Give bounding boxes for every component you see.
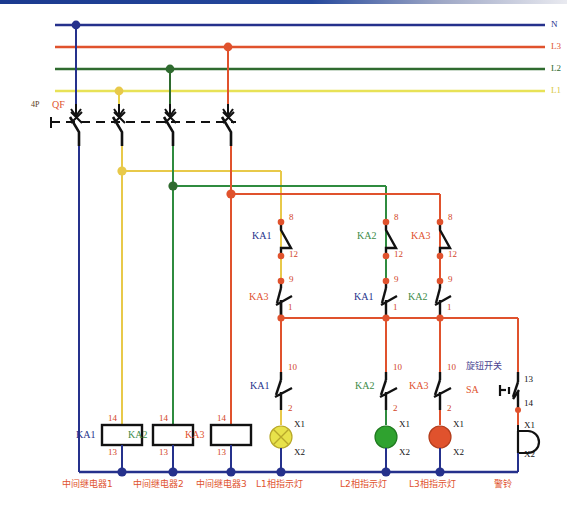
lamp-L2 [375,426,397,472]
terminal-10-lamp2: 10 [393,363,402,372]
coil-label-KA2: KA2 [128,430,147,440]
junction-dot [115,87,124,96]
junction-dot [226,189,235,198]
schematic-canvas: N L3 L2 L1 4P QF 8 KA1 12 9 KA3 1 8 KA2 … [0,0,567,516]
contact-device-KA1-nc: KA1 [252,231,271,241]
junction-dot [168,467,177,476]
terminal-1-col3: 1 [447,303,452,312]
junction-dot [72,21,81,30]
lamp-L1 [270,426,292,472]
terminal-9-col2: 9 [394,275,399,284]
coil3-terminal-13: 13 [217,448,226,457]
contact-device-KA3-nc: KA3 [411,231,430,241]
coil3-terminal-14: 14 [217,414,226,423]
junction-dot [381,467,390,476]
junction-dot [166,65,175,74]
lamp-contact-device-1: KA1 [250,381,269,391]
junction-dot [224,43,233,52]
lamp1-terminal-x2: X2 [294,448,305,457]
junction-dot [117,166,126,175]
bus-label-N: N [551,20,558,29]
lamp-contact-device-3: KA3 [409,381,428,391]
terminal-2-lamp3: 2 [447,404,452,413]
coil1-terminal-13: 13 [108,448,117,457]
contact-device-KA2-no: KA2 [408,292,427,302]
terminal-12-col1: 12 [289,250,298,259]
lamp-contact-device-2: KA2 [355,381,374,391]
junction-dot [276,467,285,476]
bell-terminal-x2: X2 [524,450,535,459]
terminal-2-lamp1: 2 [288,404,293,413]
breaker-QF[interactable] [51,104,236,146]
lamp-contact-2 [380,372,397,425]
lamp1-terminal-x1: X1 [294,420,305,429]
breaker-poles-label: 4P [31,101,39,109]
bell-terminal-x1: X1 [524,421,535,430]
rotary-switch-caption: 旋钮开关 [466,362,502,371]
junction-dot [117,467,126,476]
coil-label-KA3: KA3 [185,430,204,440]
caption-lamp-L2: L2相指示灯 [340,480,387,489]
terminal-1-col1: 1 [288,303,293,312]
rotary-switch-SA[interactable] [500,372,521,425]
lamp-contact-1 [275,372,292,425]
bus-label-L1: L1 [551,86,561,95]
junction-dot [435,467,444,476]
rotary-switch-name: SA [466,385,479,395]
lamp3-terminal-x2: X2 [453,448,464,457]
lamp-L3 [429,426,451,472]
contact-device-KA2-nc: KA2 [357,231,376,241]
coil2-terminal-14: 14 [159,414,168,423]
caption-lamp-L3: L3相指示灯 [409,480,456,489]
terminal-2-lamp2: 2 [393,404,398,413]
contact-device-KA3-no: KA3 [249,292,268,302]
caption-relay-3: 中间继电器3 [196,480,247,489]
terminal-9-col1: 9 [289,275,294,284]
terminal-1-col2: 1 [393,303,398,312]
breaker-name-label: QF [52,100,65,110]
rotary-switch-terminal-14: 14 [524,399,533,408]
caption-alarm-bell: 警铃 [494,480,512,489]
terminal-10-lamp1: 10 [288,363,297,372]
lamp2-terminal-x2: X2 [399,448,410,457]
caption-lamp-L1: L1相指示灯 [256,480,303,489]
junction-dot [168,181,177,190]
rotary-switch-terminal-13: 13 [524,375,533,384]
junction-dot [226,467,235,476]
bus-label-L3: L3 [551,42,561,51]
caption-relay-2: 中间继电器2 [133,480,184,489]
terminal-8-col2: 8 [394,213,399,222]
caption-relay-1: 中间继电器1 [62,480,113,489]
bus-label-L2: L2 [551,64,561,73]
terminal-9-col3: 9 [448,275,453,284]
lamp2-terminal-x1: X1 [399,420,410,429]
coil1-terminal-14: 14 [108,414,117,423]
lamp-contact-3 [434,372,451,425]
lamp3-terminal-x1: X1 [453,420,464,429]
coil-label-KA1: KA1 [76,430,95,440]
terminal-12-col3: 12 [448,250,457,259]
terminal-12-col2: 12 [394,250,403,259]
contact-device-KA1-no: KA1 [354,292,373,302]
coil2-terminal-13: 13 [159,448,168,457]
terminal-8-col1: 8 [289,213,294,222]
terminal-10-lamp3: 10 [447,363,456,372]
terminal-8-col3: 8 [448,213,453,222]
